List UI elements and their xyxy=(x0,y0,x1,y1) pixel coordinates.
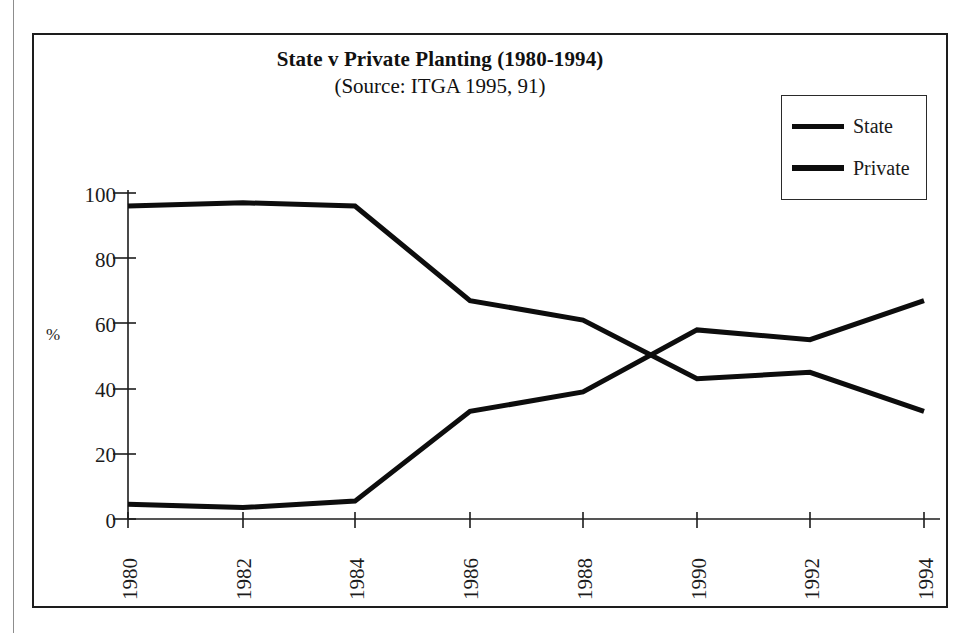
y-tick-label-40: 40 xyxy=(60,380,116,401)
y-tick-label-80: 80 xyxy=(60,250,116,271)
legend-label-state: State xyxy=(853,116,893,136)
y-tick-label-60: 60 xyxy=(60,315,116,336)
y-tick-label-100: 100 xyxy=(60,185,116,206)
legend-label-private: Private xyxy=(853,158,910,178)
chart-subtitle: (Source: ITGA 1995, 91) xyxy=(120,75,760,99)
x-tick-label-1994: 1994 xyxy=(916,558,937,600)
legend-item-state: State xyxy=(792,116,893,136)
x-tick-label-1982: 1982 xyxy=(234,558,255,600)
legend-swatch-private-icon xyxy=(792,165,844,171)
x-tick-label-1984: 1984 xyxy=(347,558,368,600)
x-tick-label-1992: 1992 xyxy=(802,558,823,600)
y-tick-label-20: 20 xyxy=(60,445,116,466)
page-title: State v Private Planting (1980-1994) xyxy=(120,48,760,72)
chart-legend: State Private xyxy=(781,95,927,200)
x-tick-label-1980: 1980 xyxy=(120,558,141,600)
chart-title-block: State v Private Planting (1980-1994) (So… xyxy=(120,48,760,98)
x-tick-label-1988: 1988 xyxy=(575,558,596,600)
page-canvas: State v Private Planting (1980-1994) (So… xyxy=(0,0,971,633)
y-axis-title: % xyxy=(46,326,60,343)
legend-item-private: Private xyxy=(792,158,910,178)
y-tick-label-0: 0 xyxy=(60,511,116,532)
page-edge-rule xyxy=(13,0,14,633)
x-tick-label-1990: 1990 xyxy=(689,558,710,600)
legend-swatch-state-icon xyxy=(792,124,844,129)
x-tick-label-1986: 1986 xyxy=(461,558,482,600)
